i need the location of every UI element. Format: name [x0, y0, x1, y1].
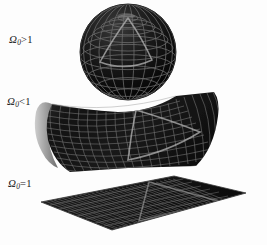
omega-value-closed: 1: [27, 34, 32, 45]
label-flat-universe: Ω0=1: [8, 177, 32, 191]
omega-value-flat: 1: [26, 178, 31, 189]
sphere-mesh: [80, 4, 176, 101]
plane-triangle: [139, 182, 222, 221]
flat-euclidean-surface: [0, 0, 267, 245]
label-closed-universe: Ω0>1: [9, 33, 33, 47]
closed-spherical-surface: [0, 0, 267, 245]
cosmological-geometry-figure: Ω0>1 Ω0<1 Ω0=1: [0, 0, 267, 245]
saddle-body: [47, 92, 219, 172]
plane-body: [41, 176, 246, 230]
omega-symbol-closed: Ω: [9, 33, 17, 45]
omega-symbol-flat: Ω: [8, 177, 16, 189]
open-hyperbolic-surface: [0, 0, 267, 245]
saddle-triangle: [128, 110, 200, 160]
saddle-mesh: [47, 92, 219, 174]
label-open-universe: Ω0<1: [7, 95, 31, 109]
saddle-underside-lip: [35, 102, 58, 168]
sphere-body: [80, 4, 176, 100]
omega-symbol-open: Ω: [7, 95, 15, 107]
sphere-triangle: [100, 18, 152, 67]
plane-mesh: [41, 176, 246, 230]
omega-value-open: 1: [25, 96, 30, 107]
